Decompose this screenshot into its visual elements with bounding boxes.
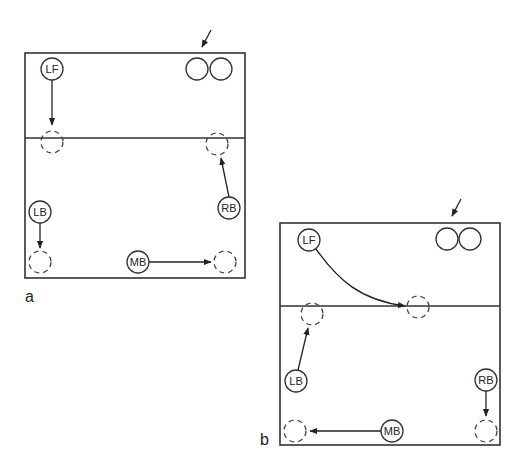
opponent-circle: [210, 58, 232, 80]
rotation-diagram: LF RB LB MB a LF LB: [0, 0, 526, 465]
player-rb-label: RB: [221, 202, 236, 214]
panel-b-label: b: [260, 431, 269, 448]
court-outline: [280, 223, 500, 445]
panel-b: LF LB RB MB b: [260, 199, 500, 448]
rb-move-arrow: [221, 158, 229, 197]
player-lb-label: LB: [289, 375, 302, 387]
lb-move-arrow: [298, 328, 308, 370]
player-mb-label: MB: [384, 425, 401, 437]
target-position-mb: [214, 251, 236, 273]
target-position-lb: [29, 251, 51, 273]
opponent-circle: [436, 228, 458, 250]
player-lf-label: LF: [303, 234, 316, 246]
panel-a-label: a: [25, 288, 34, 305]
serve-arrow-icon: [202, 30, 211, 47]
player-lf-label: LF: [46, 63, 59, 75]
court-outline: [25, 53, 245, 278]
player-mb-label: MB: [130, 256, 147, 268]
target-position-mb: [284, 420, 306, 442]
target-position-lf: [41, 131, 63, 153]
target-position-lf: [407, 296, 429, 318]
target-position-rb: [206, 133, 228, 155]
opponent-circle: [186, 58, 208, 80]
player-lb-label: LB: [33, 206, 46, 218]
lf-move-arrow: [316, 249, 405, 306]
opponent-circle: [459, 228, 481, 250]
serve-arrow-icon: [452, 199, 461, 216]
panel-a: LF RB LB MB a: [25, 30, 245, 305]
target-position-rb: [475, 420, 497, 442]
player-rb-label: RB: [478, 374, 493, 386]
